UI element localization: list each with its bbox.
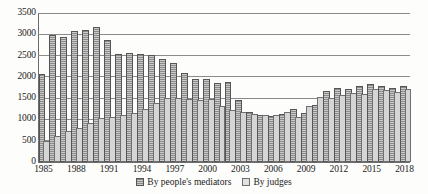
x-tick-label: 1994 [133, 164, 152, 174]
bar-group [192, 13, 202, 162]
x-tick-label: 1985 [34, 164, 53, 174]
y-tick-label: 2000 [2, 72, 36, 82]
legend-item[interactable]: By people's mediators [136, 177, 231, 187]
bar-group [225, 13, 235, 162]
bar-group [82, 13, 92, 162]
bar-group [148, 13, 158, 162]
x-tick-label: 2015 [362, 164, 381, 174]
bar-group [378, 13, 388, 162]
bar-group [126, 13, 136, 162]
plot-area [38, 13, 410, 162]
bar-group [246, 13, 256, 162]
y-tick-label: 500 [2, 136, 36, 146]
bar-group [367, 13, 377, 162]
x-tick-label: 1991 [100, 164, 119, 174]
bar-group [268, 13, 278, 162]
bar-group [389, 13, 399, 162]
bar-groups [38, 13, 410, 162]
bar-group [93, 13, 103, 162]
y-tick-label: 0 [2, 157, 36, 167]
bar-chart: 0500100015002000250030003500 19851988199… [0, 0, 428, 194]
x-tick-label: 1997 [165, 164, 184, 174]
x-tick-label: 1988 [67, 164, 86, 174]
bar-group [323, 13, 333, 162]
bar-group [235, 13, 245, 162]
legend-label: By judges [253, 177, 291, 187]
bar-group [334, 13, 344, 162]
bar [405, 89, 412, 162]
bar-group [60, 13, 70, 162]
bar-group [181, 13, 191, 162]
bar-group [400, 13, 410, 162]
y-tick-label: 2500 [2, 51, 36, 61]
bar-group [312, 13, 322, 162]
legend-item[interactable]: By judges [242, 177, 291, 187]
x-tick-label: 2009 [297, 164, 316, 174]
x-tick-label: 2006 [264, 164, 283, 174]
x-tick-label: 2012 [330, 164, 349, 174]
legend-swatch-icon [136, 178, 144, 186]
bar-group [71, 13, 81, 162]
y-tick-label: 3500 [2, 8, 36, 18]
y-tick-label: 3000 [2, 29, 36, 39]
bar-group [345, 13, 355, 162]
bar-group [279, 13, 289, 162]
bar-group [159, 13, 169, 162]
bar-group [257, 13, 267, 162]
bar-group [214, 13, 224, 162]
bar-group [104, 13, 114, 162]
y-tick-label: 1500 [2, 93, 36, 103]
bar-group [170, 13, 180, 162]
bar-group [49, 13, 59, 162]
x-tick-label: 2003 [231, 164, 250, 174]
bar-group [115, 13, 125, 162]
legend-swatch-icon [242, 178, 250, 186]
x-tick-label: 2018 [395, 164, 414, 174]
bar-group [39, 13, 49, 162]
bar-group [356, 13, 366, 162]
bar-group [290, 13, 300, 162]
x-tick-label: 2000 [198, 164, 217, 174]
bar-group [137, 13, 147, 162]
bar-group [301, 13, 311, 162]
y-tick-label: 1000 [2, 114, 36, 124]
bar-group [203, 13, 213, 162]
legend-label: By people's mediators [147, 177, 231, 187]
chart-legend: By people's mediatorsBy judges [0, 177, 428, 187]
